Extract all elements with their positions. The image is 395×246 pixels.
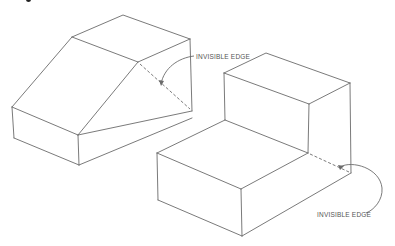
invisible-edge-label-left: INVISIBLE EDGE [196,53,250,60]
leader-arc [161,56,194,84]
diagram-canvas: INVISIBLE EDGE INVISIBLE EDGE [0,0,395,246]
wedge-block-figure [12,15,194,165]
invisible-edge-label-right: INVISIBLE EDGE [317,211,371,218]
leader-arc [340,165,382,213]
hidden-edge-line [140,64,190,109]
hidden-edge-line [310,154,349,172]
drawing-svg [0,0,395,246]
